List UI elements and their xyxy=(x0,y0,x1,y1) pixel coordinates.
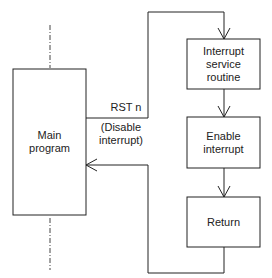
main-program-label: Main program xyxy=(13,69,86,215)
main-program-label-line2: program xyxy=(29,142,70,155)
return-label: Return xyxy=(187,197,260,247)
isr-label-line2: service xyxy=(206,58,241,71)
rst-n-label: RST n xyxy=(104,101,148,114)
disable-interrupt-annotation: (Disable interrupt) xyxy=(92,121,150,147)
return-label-line1: Return xyxy=(207,216,240,229)
enable-interrupt-label-line1: Enable xyxy=(206,130,240,143)
enable-interrupt-label: Enable interrupt xyxy=(187,117,260,168)
annotation-line2: interrupt) xyxy=(92,134,150,147)
isr-label-line3: routine xyxy=(207,71,241,84)
enable-interrupt-label-line2: interrupt xyxy=(203,143,243,156)
annotation-line1: (Disable xyxy=(92,121,150,134)
main-program-label-line1: Main xyxy=(38,129,62,142)
isr-label: Interrupt service routine xyxy=(187,39,260,89)
isr-label-line1: Interrupt xyxy=(203,45,244,58)
